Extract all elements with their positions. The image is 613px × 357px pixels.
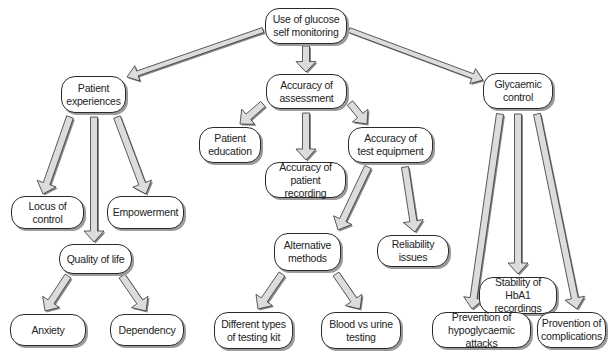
arrow-alternative_methods-to-different_testing_kit bbox=[256, 272, 286, 311]
node-label: Stability of HbA1 recordings bbox=[483, 276, 553, 315]
node-prevention-of-complications: Provention of complications bbox=[537, 312, 606, 348]
arrow-accuracy_assessment-to-accuracy_patient_recording bbox=[296, 113, 318, 162]
arrow-patient_experiences-to-empowerment bbox=[114, 116, 153, 196]
node-locus-of-control: Locus of control bbox=[11, 196, 84, 229]
node-label: Dependency bbox=[119, 324, 176, 337]
node-quality-of-life: Quality of life bbox=[59, 244, 132, 274]
node-label: Accuracy of patient recording bbox=[269, 161, 342, 200]
arrow-accuracy_test_equipment-to-reliability_issues bbox=[402, 167, 425, 234]
node-label: Glycaemic control bbox=[494, 78, 541, 104]
node-label: Anxiety bbox=[31, 324, 64, 337]
arrow-patient_experiences-to-quality_of_life bbox=[84, 117, 106, 244]
arrow-accuracy_assessment-to-patient_education bbox=[240, 101, 267, 125]
node-label: Alternative methods bbox=[284, 239, 331, 265]
arrow-patient_experiences-to-locus_of_control bbox=[37, 116, 75, 196]
arrow-quality_of_life-to-anxiety bbox=[43, 274, 73, 312]
concept-map: Use of glucose self monitoring Patient e… bbox=[0, 0, 613, 357]
node-root: Use of glucose self monitoring bbox=[265, 8, 347, 44]
arrow-quality_of_life-to-dependency bbox=[119, 274, 149, 313]
node-label: Use of glucose self monitoring bbox=[273, 13, 340, 39]
node-label: Accuracy of assessment bbox=[279, 79, 333, 105]
node-blood-vs-urine-testing: Blood vs urine testing bbox=[321, 312, 401, 349]
node-anxiety: Anxiety bbox=[10, 314, 86, 346]
arrow-root-to-glycaemic_control bbox=[348, 28, 484, 85]
node-label: Patient experiences bbox=[66, 82, 120, 108]
node-prevention-of-hypoglycaemic-attacks: Prevention of hypoglycaemic attacks bbox=[432, 312, 531, 348]
node-label: Locus of control bbox=[15, 200, 80, 226]
node-label: Provention of complications bbox=[541, 317, 602, 343]
node-accuracy-of-assessment: Accuracy of assessment bbox=[266, 74, 347, 109]
node-label: Empowerment bbox=[113, 206, 179, 219]
node-label: Different types of testing kit bbox=[221, 318, 286, 344]
node-alternative-methods: Alternative methods bbox=[274, 233, 341, 271]
node-label: Reliability issues bbox=[381, 238, 445, 264]
node-reliability-issues: Reliability issues bbox=[377, 235, 449, 267]
node-label: Blood vs urine testing bbox=[329, 318, 393, 344]
node-label: Patient education bbox=[208, 132, 252, 158]
node-accuracy-of-patient-recording: Accuracy of patient recording bbox=[265, 162, 346, 198]
node-glycaemic-control: Glycaemic control bbox=[483, 73, 553, 109]
node-patient-experiences: Patient experiences bbox=[61, 76, 126, 113]
node-label: Prevention of hypoglycaemic attacks bbox=[436, 311, 527, 350]
arrow-glycaemic_control-to-stability_hba1 bbox=[508, 114, 530, 276]
arrow-root-to-accuracy_assessment bbox=[296, 46, 318, 74]
node-accuracy-of-test-equipment: Accuracy of test equipment bbox=[348, 127, 433, 163]
arrow-accuracy_assessment-to-accuracy_test_equipment bbox=[347, 101, 369, 126]
arrow-alternative_methods-to-blood_vs_urine bbox=[333, 272, 363, 311]
node-dependency: Dependency bbox=[110, 314, 184, 346]
node-stability-of-hba1-recordings: Stability of HbA1 recordings bbox=[479, 277, 557, 314]
node-empowerment: Empowerment bbox=[107, 196, 184, 229]
node-patient-education: Patient education bbox=[199, 127, 261, 163]
node-label: Accuracy of test equipment bbox=[357, 132, 423, 158]
node-different-types-of-testing-kit: Different types of testing kit bbox=[214, 312, 293, 349]
arrow-root-to-patient_experiences bbox=[127, 28, 265, 83]
node-label: Quality of life bbox=[67, 253, 125, 266]
